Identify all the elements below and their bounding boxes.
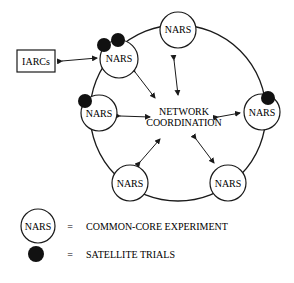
svg-text:NARS: NARS [117, 178, 144, 189]
legend: NARS = COMMON-CORE EXPERIMENT = SATELLIT… [21, 209, 228, 262]
node-right: NARS [244, 91, 280, 130]
node-top: NARS [160, 12, 196, 48]
node-lower-left: NARS [112, 165, 148, 201]
svg-text:COMMON-CORE EXPERIMENT: COMMON-CORE EXPERIMENT [86, 221, 228, 232]
network-diagram: IARCs NARS NARS NARS NARS NARS NARS NETW… [0, 0, 294, 283]
node-lower-right: NARS [210, 165, 246, 201]
satellite-dot [97, 38, 111, 52]
svg-text:NARS: NARS [86, 108, 113, 119]
satellite-dot [78, 94, 92, 108]
svg-text:SATELLITE TRIALS: SATELLITE TRIALS [86, 249, 175, 260]
svg-text:NARS: NARS [249, 107, 276, 118]
svg-text:NARS: NARS [165, 24, 192, 35]
svg-text:NARS: NARS [106, 53, 133, 64]
satellite-dot [111, 33, 125, 47]
svg-text:=: = [67, 221, 73, 232]
center-label-line2: COORDINATION [146, 117, 222, 128]
satellite-dot [261, 91, 275, 105]
legend-satellite-dot [28, 246, 44, 262]
svg-text:NARS: NARS [25, 221, 52, 232]
center-label-line1: NETWORK [159, 106, 210, 117]
node-left: NARS [78, 94, 117, 131]
svg-text:NARS: NARS [215, 178, 242, 189]
iarcs-label: IARCs [22, 56, 50, 67]
node-upper-left: NARS [97, 33, 138, 78]
svg-text:=: = [67, 249, 73, 260]
